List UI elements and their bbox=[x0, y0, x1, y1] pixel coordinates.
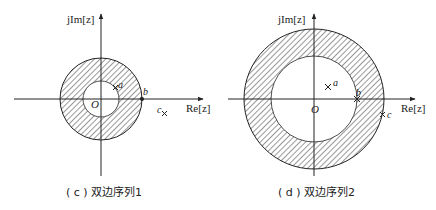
label-b-d: b bbox=[356, 87, 361, 98]
label-c-d: c bbox=[387, 109, 392, 120]
diagram-d: a b c O Re[z] jIm[z] ( d ) 双边序列2 bbox=[0, 0, 436, 210]
pole-zero-figure: a b c O Re[z] jIm[z] ( c ) 双边序列1 a bbox=[0, 0, 436, 210]
re-axis-label-d: Re[z] bbox=[401, 102, 425, 114]
caption-d: ( d ) 双边序列2 bbox=[278, 185, 355, 199]
origin-label-d: O bbox=[311, 103, 319, 115]
roc-annulus-d bbox=[0, 0, 436, 210]
label-a-d: a bbox=[333, 77, 338, 88]
im-axis-label-d: jIm[z] bbox=[277, 13, 305, 25]
